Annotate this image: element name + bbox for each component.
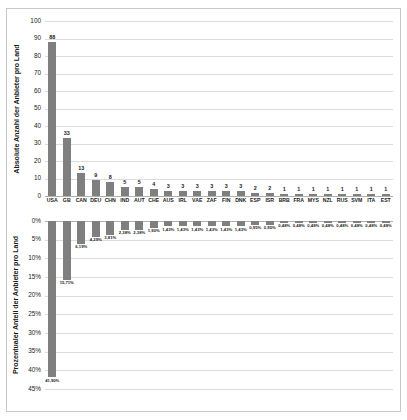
bar-value-label: 0,48% (369, 224, 403, 228)
bar (266, 193, 274, 197)
bar (338, 194, 346, 196)
bar (150, 189, 158, 196)
bar (48, 42, 56, 196)
gridline (45, 314, 393, 315)
bar (324, 194, 332, 196)
bar (164, 191, 172, 196)
chart-page: 0102030405060708090100Absolute Anzahl de… (0, 0, 407, 420)
bar (280, 194, 288, 196)
gridline (45, 109, 393, 110)
bar (121, 221, 129, 230)
bar (382, 194, 390, 196)
chart-frame: 0102030405060708090100Absolute Anzahl de… (6, 8, 401, 412)
bar (92, 180, 100, 196)
bar (208, 191, 216, 196)
gridline (45, 126, 393, 127)
bar (179, 191, 187, 196)
bar-value-label: 15,71% (50, 281, 84, 285)
gridline (45, 277, 393, 278)
bar (193, 191, 201, 196)
y-axis-title: Absolute Anzahl der Anbieter pro Land (12, 21, 22, 196)
gridline (45, 296, 393, 297)
gridline (45, 39, 393, 40)
bar (353, 194, 361, 196)
gridline (45, 161, 393, 162)
gridline (45, 389, 393, 390)
bar-value-label: 1 (369, 187, 403, 192)
bar (92, 221, 100, 237)
bar-value-label: 6,19% (64, 245, 98, 249)
bar (135, 187, 143, 196)
bar-value-label: 41,90% (35, 379, 69, 383)
gridline (45, 144, 393, 145)
bar (251, 193, 259, 197)
bar (164, 221, 172, 226)
bar-value-label: 88 (35, 35, 69, 40)
bar-value-label: 13 (64, 166, 98, 171)
absolute-chart-panel: 0102030405060708090100Absolute Anzahl de… (7, 21, 400, 196)
bar (48, 221, 56, 377)
x-axis-category-label: EST (371, 198, 401, 203)
gridline (45, 74, 393, 75)
bar (63, 221, 71, 280)
gridline (45, 21, 393, 22)
bar (309, 194, 317, 196)
gridline (45, 352, 393, 353)
bar (251, 221, 259, 225)
bar (295, 194, 303, 196)
gridline (45, 56, 393, 57)
bar-value-label: 33 (50, 131, 84, 136)
bar (237, 191, 245, 196)
bar (367, 194, 375, 196)
gridline (45, 258, 393, 259)
bar-value-label: 3,81% (93, 236, 127, 240)
bar (208, 221, 216, 226)
bar (222, 191, 230, 196)
y-axis-title: Prozentualer Anteil der Anbieter pro Lan… (12, 221, 22, 389)
bar (121, 187, 129, 196)
gridline (45, 333, 393, 334)
bar (179, 221, 187, 226)
gridline (45, 370, 393, 371)
bar (222, 221, 230, 226)
bar (193, 221, 201, 226)
prozentual-chart-panel: 0%5%10%15%20%25%30%35%40%45%Prozentualer… (7, 221, 400, 389)
gridline (45, 91, 393, 92)
